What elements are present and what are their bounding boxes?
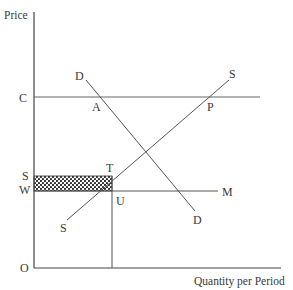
- supply-label-bottom: S: [60, 221, 67, 235]
- origin-label: O: [20, 261, 29, 275]
- price-label-s: S: [22, 169, 29, 183]
- world-price-label-m: M: [222, 185, 233, 199]
- supply-label-top: S: [229, 67, 236, 81]
- point-label-a: A: [92, 100, 101, 114]
- price-label-c: C: [19, 91, 27, 105]
- demand-label-top: D: [75, 69, 84, 83]
- price-label-w: W: [19, 183, 31, 197]
- shaded-region: [34, 176, 112, 191]
- demand-label-bottom: D: [193, 213, 202, 227]
- point-label-p: P: [207, 100, 214, 114]
- x-axis-label: Quantity per Period: [194, 275, 285, 288]
- y-axis-label: Price: [4, 9, 28, 21]
- point-label-u: U: [116, 194, 125, 208]
- point-label-t: T: [106, 161, 114, 175]
- supply-demand-diagram: Price Quantity per Period O C S W D D S …: [0, 0, 293, 290]
